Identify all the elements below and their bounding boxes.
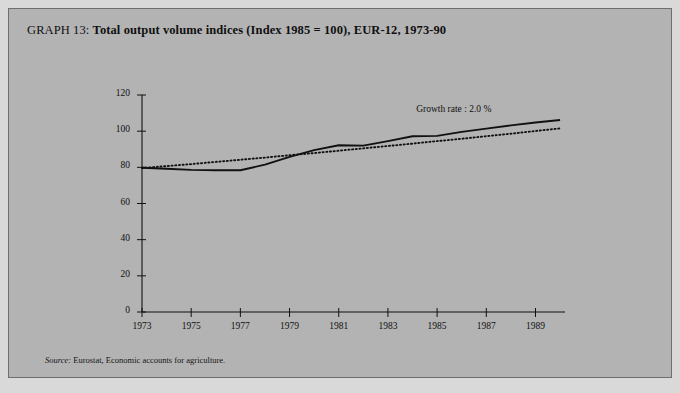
- x-tick-label: 1973: [117, 321, 167, 331]
- y-tick-label: 80: [80, 160, 130, 170]
- x-tick-label: 1985: [412, 321, 462, 331]
- figure-panel: GRAPH 13: Total output volume indices (I…: [8, 8, 672, 378]
- source-text: Eurostat, Economic accounts for agricult…: [73, 355, 225, 365]
- y-tick-label: 100: [80, 124, 130, 134]
- x-tick-label: 1975: [166, 321, 216, 331]
- y-tick-label: 20: [80, 269, 130, 279]
- y-tick-label: 60: [80, 197, 130, 207]
- x-tick-label: 1979: [265, 321, 315, 331]
- y-tick-label: 0: [80, 305, 130, 315]
- trend-line: [142, 128, 560, 168]
- x-tick-label: 1989: [510, 321, 560, 331]
- data-series-group: [142, 120, 560, 170]
- growth-rate-annotation: Growth rate : 2.0 %: [416, 104, 491, 114]
- y-tick-label: 120: [80, 88, 130, 98]
- x-tick-label: 1981: [314, 321, 364, 331]
- x-tick-label: 1983: [363, 321, 413, 331]
- source-label: Source:: [45, 355, 71, 365]
- x-tick-label: 1977: [215, 321, 265, 331]
- source-note: Source: Eurostat, Economic accounts for …: [45, 355, 225, 365]
- y-tick-label: 40: [80, 233, 130, 243]
- chart-plot-area: 020406080100120 197319751977197919811983…: [9, 9, 673, 379]
- x-tick-label: 1987: [461, 321, 511, 331]
